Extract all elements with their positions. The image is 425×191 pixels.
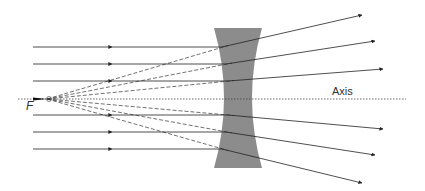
virtual-extension-4	[47, 99, 234, 116]
virtual-extension-5	[47, 99, 232, 133]
focal-point-label: F	[26, 100, 33, 112]
focal-point-icon	[33, 98, 47, 101]
lens-diagram: F Axis	[0, 0, 425, 191]
virtual-ray-extensions	[47, 46, 234, 151]
diagram-canvas	[0, 0, 425, 191]
axis-label: Axis	[332, 86, 353, 97]
concave-lens	[214, 28, 262, 168]
virtual-extension-3	[47, 81, 234, 99]
lens-shape	[214, 28, 262, 168]
virtual-extension-1	[47, 46, 228, 99]
